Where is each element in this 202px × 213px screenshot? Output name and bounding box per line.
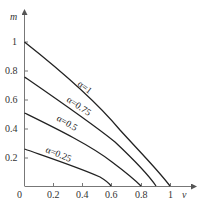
origin-label: 0 — [17, 189, 22, 200]
y-ticks — [25, 42, 29, 158]
curve-alpha-0.75 — [25, 77, 157, 186]
chart: 1 0.8 0.6 0.4 0.2 0 0.2 0.4 0.6 0.8 1 m … — [0, 0, 202, 213]
curve-label-alpha-1: α=1 — [76, 79, 94, 96]
x-axis-label: v — [182, 189, 187, 200]
x-ticks — [54, 183, 171, 187]
y-tick-label: 0.2 — [5, 152, 18, 163]
chart-svg: 1 0.8 0.6 0.4 0.2 0 0.2 0.4 0.6 0.8 1 m … — [0, 0, 202, 213]
x-tick-label: 0.8 — [135, 189, 148, 200]
y-tick-label: 0.6 — [5, 94, 18, 105]
y-axis-label: m — [10, 11, 17, 22]
y-tick-label: 1 — [12, 36, 17, 47]
y-tick-label: 0.4 — [5, 123, 18, 134]
x-tick-label: 0.4 — [76, 189, 89, 200]
x-tick-label: 0.6 — [105, 189, 118, 200]
x-tick-label: 1 — [168, 189, 173, 200]
y-tick-label: 0.8 — [5, 65, 18, 76]
x-tick-label: 0.2 — [47, 189, 60, 200]
curve-alpha-1 — [25, 42, 171, 186]
